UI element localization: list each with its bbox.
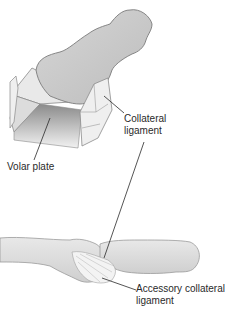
accessory-leader-line [102, 278, 136, 290]
finger-side-view [0, 237, 199, 283]
collateral-ligament-label-line1: Collateral [124, 113, 166, 125]
joint-illustration [0, 0, 230, 316]
accessory-label-line1: Accessory collateral [136, 283, 225, 295]
accessory-collateral-ligament-label: Accessory collateral ligament [136, 283, 225, 307]
volar-plate-label: Volar plate [7, 161, 54, 173]
collateral-ligament-label-line2: ligament [124, 125, 166, 137]
volar-plate-label-text: Volar plate [7, 161, 54, 172]
accessory-label-line2: ligament [136, 295, 225, 307]
collateral-ligament-label: Collateral ligament [124, 113, 166, 137]
